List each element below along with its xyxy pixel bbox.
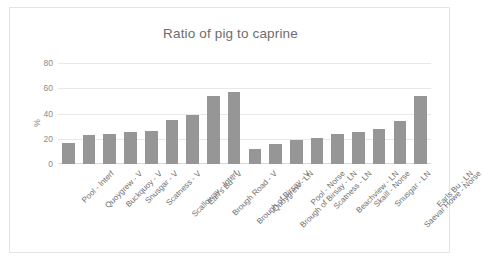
- x-axis-label-slot: Snusgar - V: [120, 165, 141, 260]
- bar[interactable]: [290, 140, 303, 164]
- bar-slot: [224, 63, 245, 164]
- x-axis-label-slot: Brough Road - V: [203, 165, 224, 260]
- bar-series: [58, 63, 431, 164]
- x-axis-label-slot: Scatness - V: [141, 165, 162, 260]
- bar-slot: [203, 63, 224, 164]
- bar[interactable]: [62, 143, 75, 164]
- bar[interactable]: [83, 135, 96, 164]
- x-axis-label-slot: Pool - Norse: [286, 165, 307, 260]
- x-axis-label-slot: Buckquoy - V: [99, 165, 120, 260]
- bar[interactable]: [207, 96, 220, 164]
- bar[interactable]: [414, 96, 427, 164]
- bar[interactable]: [186, 115, 199, 164]
- y-axis-tick-label: 20: [44, 134, 53, 144]
- bar-slot: [369, 63, 390, 164]
- bar-slot: [58, 63, 79, 164]
- x-axis-label-slot: Scalloway - Interf: [162, 165, 183, 260]
- chart-title: Ratio of pig to caprine: [10, 26, 451, 41]
- x-axis-label-slot: Saevar Howe - Norse: [390, 165, 411, 260]
- bar-slot: [286, 63, 307, 164]
- bar[interactable]: [311, 138, 324, 165]
- y-axis-tick-label: 0: [48, 159, 53, 169]
- bar[interactable]: [228, 92, 241, 164]
- bar-slot: [390, 63, 411, 164]
- bar-slot: [99, 63, 120, 164]
- bar-slot: [410, 63, 431, 164]
- bar-slot: [307, 63, 328, 164]
- plot-area: 020406080: [58, 63, 431, 164]
- x-axis-label-slot: Scatness - LN: [307, 165, 328, 260]
- bar-slot: [348, 63, 369, 164]
- x-axis-label-slot: Snusgar - LN: [369, 165, 390, 260]
- x-axis-label-slot: Earls Bu - LN: [410, 165, 431, 260]
- bar-slot: [182, 63, 203, 164]
- bar[interactable]: [166, 120, 179, 164]
- bar[interactable]: [249, 149, 262, 164]
- x-axis-label-slot: Skaill - Norse: [348, 165, 369, 260]
- x-axis-label-slot: Brough of Birsay - V: [224, 165, 245, 260]
- bar[interactable]: [103, 134, 116, 164]
- bar[interactable]: [373, 129, 386, 164]
- y-axis-label: %: [32, 119, 42, 127]
- x-axis-label-slot: Quoygrew - V: [79, 165, 100, 260]
- bar[interactable]: [352, 132, 365, 164]
- x-axis-label-slot: Quoygrew - LN: [245, 165, 266, 260]
- x-axis-tick-label: Saevar Howe - Norse: [422, 169, 482, 229]
- bar-slot: [327, 63, 348, 164]
- bar[interactable]: [145, 131, 158, 164]
- bar-slot: [120, 63, 141, 164]
- bar-slot: [265, 63, 286, 164]
- bar[interactable]: [394, 121, 407, 164]
- x-axis-label-slot: Earl's Bu - V: [182, 165, 203, 260]
- y-axis-tick-label: 80: [44, 58, 53, 68]
- x-axis-label-slot: Beachview - LN: [327, 165, 348, 260]
- bar[interactable]: [124, 132, 137, 164]
- bar[interactable]: [269, 144, 282, 164]
- x-axis-label-slot: Pool - Interf: [58, 165, 79, 260]
- bar[interactable]: [331, 134, 344, 164]
- bar-slot: [141, 63, 162, 164]
- bar-slot: [244, 63, 265, 164]
- y-axis-tick-label: 40: [44, 109, 53, 119]
- chart-container: Ratio of pig to caprine % 020406080 Pool…: [9, 7, 450, 253]
- x-axis-label-slot: Brough of Birsay - LN: [265, 165, 286, 260]
- bar-slot: [162, 63, 183, 164]
- x-axis-labels: Pool - InterfQuoygrew - VBuckquoy - VSnu…: [58, 165, 431, 260]
- y-axis-tick-label: 60: [44, 83, 53, 93]
- bar-slot: [79, 63, 100, 164]
